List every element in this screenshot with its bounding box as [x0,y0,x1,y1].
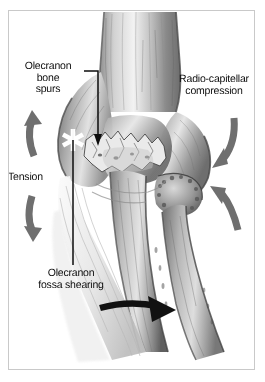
label-tension: Tension [8,172,70,184]
tension-arrow-up [24,110,42,156]
label-radio-capitellar-compression: Radio-capitellar compression [168,74,260,97]
compression-arrow-lower [210,186,238,230]
humerus [100,12,181,112]
compression-arrow-upper [212,118,234,168]
label-olecranon-fossa-shearing: Olecranon fossa shearing [24,268,118,291]
elbow-anatomy-drawing [0,0,265,382]
illustration-figure: Olecranon bone spurs Radio-capitellar co… [0,0,265,382]
tension-arrow-down [24,196,42,242]
label-olecranon-bone-spurs: Olecranon bone spurs [8,61,88,96]
